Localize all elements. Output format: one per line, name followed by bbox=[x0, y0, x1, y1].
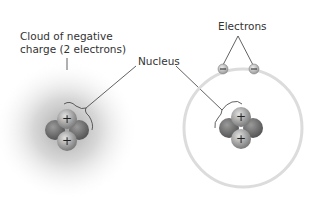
proton-plus-icon: + bbox=[62, 134, 72, 148]
proton-plus-icon: + bbox=[236, 110, 246, 124]
right-nucleus: + + bbox=[219, 107, 263, 149]
proton-plus-icon: + bbox=[62, 112, 72, 126]
nucleus-label: Nucleus bbox=[138, 55, 180, 68]
cloud-label-line2: charge (2 electrons) bbox=[20, 43, 126, 56]
electron-cloud bbox=[0, 60, 138, 198]
atom-diagram: + + + + Cloud of negative charge (2 bbox=[0, 0, 316, 198]
electrons-leader-right bbox=[238, 36, 253, 65]
proton-plus-icon: + bbox=[236, 132, 246, 146]
cloud-label-line1: Cloud of negative bbox=[20, 30, 126, 43]
electrons-leader-left bbox=[223, 36, 238, 65]
cloud-label: Cloud of negative charge (2 electrons) bbox=[20, 30, 126, 56]
electrons-label: Electrons bbox=[218, 20, 267, 33]
